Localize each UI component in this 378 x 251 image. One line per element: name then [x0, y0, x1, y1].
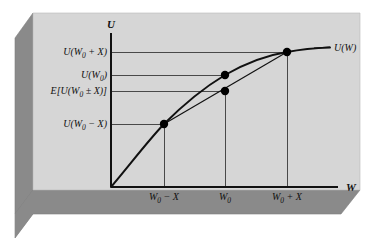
ytick3-tail: − X)	[86, 118, 108, 130]
x-axis-letter: W	[346, 181, 357, 193]
ytick3-head: U(W	[63, 118, 84, 130]
point-u-w0-plus-x	[283, 48, 291, 56]
block-bottom-face	[15, 190, 360, 214]
point-u-w0	[221, 71, 229, 79]
xtick1-sub: 0	[227, 196, 231, 205]
xtick0-tail: − X	[161, 191, 180, 202]
ytick1-head: U(W	[81, 69, 102, 81]
point-u-w0-minus-x	[160, 120, 168, 128]
point-expected-u	[221, 87, 229, 95]
ytick0-tail: + X)	[86, 46, 108, 58]
ytick0-head: U(W	[63, 46, 84, 58]
utility-function-figure: U W U(W) U(W0 + X) U(W0) E[U(W0 ± X)] U(…	[0, 0, 378, 251]
figure-canvas: U W U(W) U(W0 + X) U(W0) E[U(W0 ± X)] U(…	[0, 0, 378, 251]
ytick2-head: E[U(W	[50, 85, 82, 97]
ytick1-tail: )	[103, 69, 108, 81]
ytick2-tail: ± X)]	[83, 85, 107, 97]
block-top-face	[33, 13, 360, 190]
xtick2-tail: + X	[284, 191, 303, 202]
y-axis-letter: U	[107, 18, 116, 30]
curve-label: U(W)	[334, 42, 357, 54]
